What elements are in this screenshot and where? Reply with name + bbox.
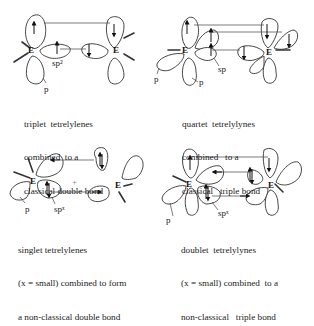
caption-singlet: singlet tetrelylenes (x = small) combine… [18, 222, 127, 326]
caption-line: (x = small) combined to form [18, 278, 127, 289]
p-orbital-lobe [106, 17, 124, 48]
caption-line: classical double bond [24, 186, 103, 197]
element-label-right: E [113, 45, 119, 55]
element-label-right: E [268, 180, 274, 190]
caption-line: combined to a [24, 152, 103, 163]
caption-line: (x = small) combined to a [181, 278, 278, 289]
element-label-right: E [115, 180, 121, 190]
orbital-label-p: p [44, 84, 49, 94]
caption-quartet: quartet tetrelylynes combined to a class… [182, 96, 260, 209]
caption-line: non-classical triple bond [181, 312, 278, 323]
p-orbital-lobe [108, 58, 124, 84]
p-orbital-lobe [26, 15, 46, 49]
element-label-left: E [28, 45, 34, 55]
caption-line: a non-classical double bond [18, 312, 127, 323]
caption-line: singlet tetrelylenes [18, 245, 127, 256]
caption-line: quartet tetrelylynes [182, 119, 260, 130]
caption-line: doublet tetrelylynes [181, 245, 278, 256]
orbital-label-p: p [154, 74, 159, 84]
orbital-label-p: p [199, 77, 204, 87]
orbital-label-sp2: sp² [52, 58, 63, 68]
p-orbital-lobe [26, 56, 44, 84]
orbital-label-p: p [166, 215, 171, 225]
quartet-panel: E E sp p p [154, 17, 298, 87]
orbital-label-sp: sp [218, 64, 227, 74]
caption-doublet: doublet tetrelylynes (x = small) combine… [181, 222, 278, 326]
caption-line: triplet tetrelylenes [24, 119, 103, 130]
caption-line: combined to a [182, 152, 260, 163]
element-label-right: E [266, 47, 272, 57]
sp2-orbital-lobe [82, 44, 108, 59]
sp2-orbital-lobe [40, 44, 70, 58]
orbital-label-spx: spˣ [218, 208, 229, 218]
caption-triplet: triplet tetrelylenes combined to a class… [24, 96, 103, 209]
element-label-left: E [182, 45, 188, 55]
caption-line: classical triple bond [182, 186, 260, 197]
triplet-panel: E E sp² p [14, 15, 134, 94]
